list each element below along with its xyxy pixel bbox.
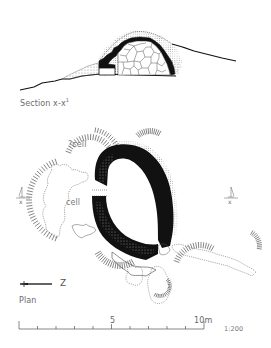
section-marker-right	[224, 187, 238, 198]
hachure-mark	[52, 235, 55, 241]
hachure-mark	[256, 238, 260, 240]
cell-label: cell	[66, 198, 80, 207]
hachure-mark	[88, 134, 89, 140]
hachure-mark	[166, 291, 169, 294]
hachure-mark	[30, 216, 36, 219]
hachure-mark	[108, 135, 111, 139]
hachure-mark	[190, 244, 192, 250]
hachure-mark	[49, 234, 52, 239]
hachure-mark	[106, 133, 109, 137]
hachure-mark	[32, 218, 37, 221]
hachure-mark	[163, 294, 164, 298]
hachure-mark	[95, 128, 96, 133]
hachure-mark	[158, 294, 159, 298]
hachure-mark	[39, 227, 43, 231]
scale-ratio: 1:200	[224, 325, 243, 333]
cell-label-uncertain: ?cell	[68, 140, 87, 149]
hachure-mark	[33, 176, 38, 179]
hachure-mark	[105, 142, 109, 146]
scale-label-5: 5	[110, 316, 115, 325]
hachure-mark	[203, 242, 204, 248]
hachure-mark	[27, 191, 33, 192]
hachure-mark	[39, 169, 43, 173]
hachure-mark	[124, 262, 125, 269]
hachure-mark	[207, 244, 209, 250]
hachure-mark	[66, 151, 72, 153]
hachure-mark	[144, 129, 146, 135]
hachure-mark	[161, 294, 162, 298]
plan-caption: Plan	[19, 296, 36, 305]
section-caption-text: Section x-x	[20, 99, 66, 108]
hachure-mark	[164, 293, 166, 297]
hachure-mark	[41, 167, 45, 172]
hachure-mark	[102, 130, 104, 135]
hachure-mark	[110, 261, 112, 268]
hachure-mark	[29, 213, 35, 215]
hachure-mark	[27, 205, 33, 206]
section-caption: Section x-x1	[20, 97, 69, 108]
north-arrow-letter: Z	[60, 278, 66, 288]
hachure-mark	[35, 223, 40, 227]
hachure-mark	[154, 293, 156, 297]
hachure-mark	[32, 179, 37, 182]
hachure-mark	[156, 294, 157, 298]
hachure-mark	[41, 229, 45, 234]
hachure-mark	[168, 282, 172, 283]
hachure-mark	[257, 243, 262, 244]
hachure-mark	[181, 249, 185, 253]
hachure-mark	[211, 246, 214, 251]
hachure-mark	[37, 171, 42, 175]
hachure-mark	[97, 128, 98, 133]
hachure-mark	[193, 243, 195, 249]
hachure-mark	[175, 258, 181, 261]
hachure-mark	[178, 253, 183, 257]
scale-label-10m: 10m	[194, 316, 212, 325]
hachure-mark	[27, 208, 33, 209]
hachure-mark	[47, 163, 50, 168]
hachure-mark	[55, 159, 57, 165]
hachure-mark	[205, 243, 206, 249]
hachure-mark	[26, 203, 32, 204]
section-marker-left-label: x	[19, 198, 23, 205]
section-caption-sup: 1	[66, 97, 69, 103]
hachure-mark	[168, 284, 172, 285]
hachure-mark	[28, 211, 34, 213]
north-arrow	[20, 281, 52, 287]
hachure-mark	[49, 161, 52, 166]
section-marker-left	[16, 187, 30, 198]
hachure-mark	[118, 262, 119, 269]
hachure-mark	[44, 165, 48, 170]
cell-rubble-outline-2	[72, 224, 96, 238]
hachure-mark	[93, 134, 94, 140]
hachure-mark	[165, 292, 168, 295]
hachure-mark	[110, 137, 114, 141]
hachure-mark	[103, 140, 107, 145]
hachure-mark	[26, 197, 32, 198]
hachure-mark	[152, 128, 153, 134]
hachure-mark	[174, 260, 180, 262]
hachure-mark	[146, 128, 147, 134]
hachure-mark	[142, 130, 144, 136]
lower-rubble-3	[148, 266, 170, 303]
archaeological-drawing	[0, 0, 271, 348]
section-marker-right-label: x	[228, 198, 232, 205]
hachure-mark	[44, 231, 48, 236]
entrance-gap	[92, 190, 108, 196]
hachure-mark	[148, 128, 149, 134]
hachure-mark	[104, 131, 107, 135]
hachure-mark	[113, 261, 115, 268]
hachure-mark	[101, 138, 104, 143]
hachure-mark	[30, 182, 36, 185]
hachure-mark	[168, 289, 172, 290]
hachure-mark	[256, 240, 261, 242]
hachure-mark	[29, 185, 35, 187]
hachure-mark	[209, 245, 212, 251]
hachure-mark	[183, 248, 187, 253]
section-drawing	[20, 31, 236, 90]
hachure-mark	[176, 256, 181, 259]
hachure-mark	[99, 137, 102, 142]
hachure-mark	[33, 221, 38, 224]
hachure-mark	[257, 248, 262, 249]
hachure-mark	[95, 135, 97, 141]
hachure-mark	[155, 129, 157, 135]
